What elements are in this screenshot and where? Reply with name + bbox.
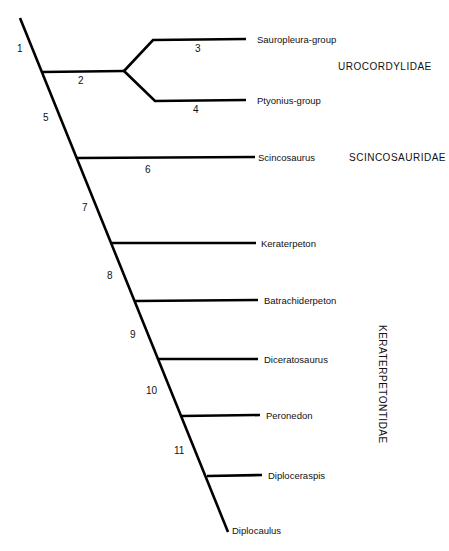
branch-urocordylid-stem (42, 71, 124, 72)
branch-scincosaurus (77, 157, 255, 158)
taxon-label-keraterpeton: Keraterpeton (261, 239, 316, 249)
branch-peronedon (181, 415, 260, 416)
taxon-label-diploceraspis: Diploceraspis (268, 471, 325, 481)
branch-sauropleura (124, 39, 246, 71)
taxon-label-scincosaurus: Scincosaurus (258, 153, 315, 163)
branch-diploceraspis (207, 475, 262, 476)
node-number-1: 1 (17, 44, 23, 54)
taxon-label-ptyonius: Ptyonius-group (257, 96, 321, 106)
branch-ptyonius (124, 71, 246, 101)
cladogram-lines (0, 0, 449, 551)
taxon-label-sauropleura: Sauropleura-group (257, 35, 336, 45)
node-number-8: 8 (107, 271, 113, 281)
family-label-scincosauridae: SCINCOSAURIDAE (349, 153, 446, 163)
node-number-3: 3 (195, 44, 201, 54)
node-number-10: 10 (146, 386, 157, 396)
node-number-6: 6 (145, 165, 151, 175)
family-label-keraterpetontidae: KERATERPETONTIDAE (377, 325, 387, 444)
family-label-urocordylidae: UROCORDYLIDAE (338, 62, 432, 72)
taxon-label-peronedon: Peronedon (266, 411, 312, 421)
main-trunk (20, 18, 228, 532)
taxon-label-batrachiderpeton: Batrachiderpeton (264, 296, 336, 306)
branch-batrachiderpeton (135, 300, 258, 301)
node-number-2: 2 (78, 76, 84, 86)
node-number-4: 4 (193, 105, 199, 115)
node-number-9: 9 (130, 330, 136, 340)
taxon-label-diplocaulus: Diplocaulus (232, 526, 281, 536)
node-number-7: 7 (82, 203, 88, 213)
node-number-5: 5 (43, 113, 49, 123)
node-number-11: 11 (174, 446, 184, 456)
taxon-label-diceratosaurus: Diceratosaurus (264, 355, 328, 365)
